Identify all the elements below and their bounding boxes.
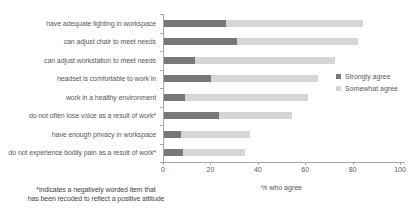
y-tick: [160, 107, 163, 108]
footnote: *indicates a negatively worded item that…: [2, 186, 190, 203]
legend-item-strongly-agree: Strongly agree: [336, 70, 398, 82]
x-tick: [400, 162, 401, 165]
y-tick: [160, 70, 163, 71]
legend: Strongly agree Somewhat agree: [336, 70, 398, 94]
bar-segment-somewhat-agree: [185, 94, 308, 101]
x-tick-label: 0: [152, 166, 174, 173]
x-tick: [210, 162, 211, 165]
x-tick-label: 100: [389, 166, 411, 173]
stacked-bar-chart-figure: have adequate lighting in workspacecan a…: [0, 0, 417, 212]
x-axis-line: [163, 162, 405, 163]
x-tick: [305, 162, 306, 165]
footnote-line1: *indicates a negatively worded item that: [2, 186, 190, 195]
bar-segment-strongly-agree: [164, 38, 237, 45]
x-tick: [163, 162, 164, 165]
y-tick: [160, 88, 163, 89]
category-label: can adjust workstation to meet needs: [0, 51, 159, 70]
bar-segment-strongly-agree: [164, 131, 181, 138]
x-tick-label: 20: [199, 166, 221, 173]
y-tick: [160, 33, 163, 34]
y-tick: [160, 144, 163, 145]
bar-segment-somewhat-agree: [195, 57, 335, 64]
bar-segment-somewhat-agree: [181, 131, 250, 138]
legend-item-somewhat-agree: Somewhat agree: [336, 82, 398, 94]
footnote-line2: has been recoded to reflect a positive a…: [2, 195, 190, 204]
category-label: do not often lose voice as a result of w…: [0, 107, 159, 126]
bar-segment-somewhat-agree: [183, 149, 245, 156]
bar-segment-somewhat-agree: [237, 38, 358, 45]
legend-swatch-strongly-agree: [336, 74, 341, 79]
legend-label-strongly-agree: Strongly agree: [345, 73, 391, 80]
x-tick-label: 80: [342, 166, 364, 173]
bar-segment-strongly-agree: [164, 20, 226, 27]
category-label: headset is comfortable to work in: [0, 70, 159, 89]
category-label: do not experience bodily pain as a resul…: [0, 144, 159, 163]
y-tick: [160, 51, 163, 52]
x-axis-title: % who agree: [163, 184, 400, 191]
bar-segment-strongly-agree: [164, 57, 195, 64]
bar-segment-strongly-agree: [164, 149, 183, 156]
y-tick: [160, 125, 163, 126]
y-tick: [160, 162, 163, 163]
x-tick-label: 60: [294, 166, 316, 173]
x-tick: [353, 162, 354, 165]
category-label: work in a healthy environment: [0, 88, 159, 107]
category-label: have adequate lighting in workspace: [0, 14, 159, 33]
bar-segment-somewhat-agree: [226, 20, 363, 27]
y-tick: [160, 14, 163, 15]
bar-segment-strongly-agree: [164, 75, 211, 82]
legend-label-somewhat-agree: Somewhat agree: [345, 85, 398, 92]
legend-swatch-somewhat-agree: [336, 86, 341, 91]
category-label: can adjust chair to meet needs: [0, 33, 159, 52]
bar-segment-somewhat-agree: [211, 75, 318, 82]
category-label: have enough privacy in workspace: [0, 125, 159, 144]
bar-segment-strongly-agree: [164, 94, 185, 101]
x-tick-label: 40: [247, 166, 269, 173]
bar-segment-somewhat-agree: [219, 112, 292, 119]
bar-segment-strongly-agree: [164, 112, 219, 119]
x-tick: [258, 162, 259, 165]
